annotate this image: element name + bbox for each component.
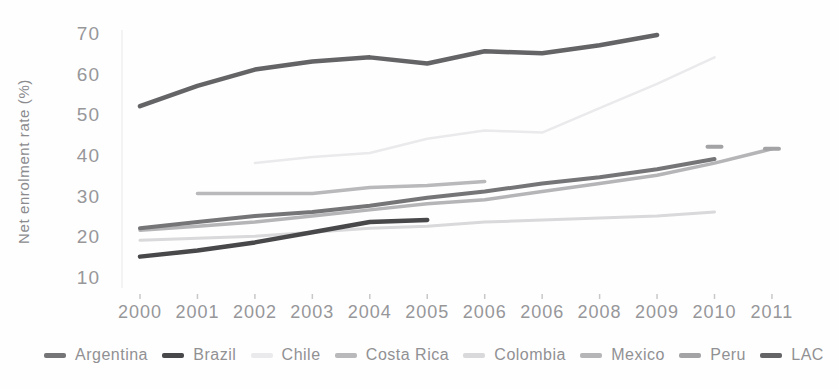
x-tick-label: 2006 <box>463 302 507 322</box>
y-tick-label: 50 <box>77 104 100 125</box>
x-tick-label: 2004 <box>348 302 392 322</box>
x-tick-label: 2010 <box>692 302 736 322</box>
enrolment-line-chart-figure: Net enrolment rate (%) 10203040506070200… <box>0 0 839 389</box>
legend-label: LAC <box>791 346 824 364</box>
legend-label: Chile <box>282 346 321 364</box>
legend-swatch <box>335 353 357 358</box>
legend-item-brazil: Brazil <box>162 346 236 364</box>
legend-swatch <box>162 353 184 358</box>
series-line-costa-rica <box>197 181 484 193</box>
legend-item-costa-rica: Costa Rica <box>335 346 449 364</box>
x-tick-label: 2000 <box>118 302 162 322</box>
legend-swatch <box>44 353 66 358</box>
legend-item-argentina: Argentina <box>44 346 148 364</box>
y-tick-label: 30 <box>77 186 100 207</box>
legend-item-lac: LAC <box>760 346 824 364</box>
y-tick-label: 70 <box>77 23 100 44</box>
x-tick-label: 2009 <box>635 302 679 322</box>
legend-item-chile: Chile <box>251 346 321 364</box>
legend-item-colombia: Colombia <box>463 346 566 364</box>
plot-area: 1020304050607020002001200220032004200520… <box>0 0 839 340</box>
series-line-chile <box>255 57 715 163</box>
legend-swatch <box>463 353 485 358</box>
y-axis-title: Net enrolment rate (%) <box>15 62 32 262</box>
x-tick-label: 2003 <box>290 302 334 322</box>
x-tick-label: 2008 <box>578 302 622 322</box>
legend-label: Peru <box>710 346 746 364</box>
series-line-colombia <box>140 212 715 240</box>
legend-label: Colombia <box>494 346 566 364</box>
legend-swatch <box>251 353 273 358</box>
chart-legend: ArgentinaBrazilChileCosta RicaColombiaMe… <box>44 346 824 364</box>
legend-item-peru: Peru <box>679 346 746 364</box>
x-tick-label: 2005 <box>405 302 449 322</box>
legend-label: Argentina <box>75 346 148 364</box>
y-tick-label: 60 <box>77 64 100 85</box>
legend-swatch <box>760 353 782 358</box>
x-tick-label: 2011 <box>751 302 794 322</box>
series-line-lac <box>140 35 657 106</box>
legend-label: Costa Rica <box>366 346 449 364</box>
y-tick-label: 40 <box>77 145 100 166</box>
legend-swatch <box>679 353 701 358</box>
legend-item-mexico: Mexico <box>580 346 665 364</box>
legend-label: Mexico <box>611 346 665 364</box>
x-tick-label: 2002 <box>233 302 277 322</box>
legend-swatch <box>580 353 602 358</box>
y-tick-label: 10 <box>77 267 100 288</box>
legend-label: Brazil <box>193 346 236 364</box>
y-tick-label: 20 <box>77 226 100 247</box>
x-tick-label: 2001 <box>175 302 219 322</box>
x-tick-label: 2006 <box>520 302 564 322</box>
